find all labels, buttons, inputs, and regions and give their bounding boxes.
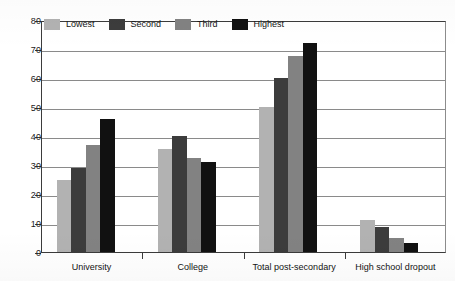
legend-label-third: Third — [197, 20, 218, 29]
bar-highest-high-school-dropout — [404, 243, 419, 252]
bar-third-university — [86, 145, 101, 252]
y-tick-label-10: 10 — [11, 220, 41, 229]
x-tick-mark-3 — [345, 253, 346, 259]
gridline-70 — [42, 51, 445, 52]
y-tick-label-80: 80 — [11, 17, 41, 26]
legend-swatch-third — [175, 19, 191, 30]
bar-highest-total-post-secondary — [303, 43, 318, 252]
legend-swatch-highest — [232, 19, 248, 30]
y-tick-label-60: 60 — [11, 75, 41, 84]
bar-second-high-school-dropout — [375, 227, 390, 252]
y-tick-label-30: 30 — [11, 162, 41, 171]
bar-lowest-university — [57, 180, 72, 253]
bar-third-college — [187, 158, 202, 252]
y-tick-label-20: 20 — [11, 191, 41, 200]
legend-label-highest: Highest — [254, 20, 285, 29]
x-category-label-college: College — [142, 262, 243, 272]
legend-item-third[interactable]: Third — [175, 19, 218, 30]
x-category-label-total-post-secondary: Total post-secondary — [244, 262, 345, 272]
y-tick-label-50: 50 — [11, 104, 41, 113]
plot-area — [41, 21, 446, 253]
y-tick-label-40: 40 — [11, 133, 41, 142]
bar-lowest-high-school-dropout — [360, 220, 375, 252]
bar-second-college — [172, 136, 187, 252]
y-axis: 01020304050607080 — [0, 0, 41, 281]
legend-swatch-lowest — [44, 19, 60, 30]
bar-chart: 01020304050607080 UniversityCollegeTotal… — [0, 0, 455, 281]
bar-second-university — [71, 168, 86, 252]
bar-lowest-college — [158, 149, 173, 252]
x-category-label-university: University — [41, 262, 142, 272]
bar-highest-college — [201, 162, 216, 252]
legend-label-lowest: Lowest — [66, 20, 95, 29]
y-tick-label-70: 70 — [11, 46, 41, 55]
legend-item-highest[interactable]: Highest — [232, 19, 285, 30]
y-tick-label-0: 0 — [11, 249, 41, 258]
bar-third-total-post-secondary — [288, 56, 303, 252]
x-tick-mark-2 — [244, 253, 245, 259]
legend-item-second[interactable]: Second — [109, 19, 162, 30]
bar-second-total-post-secondary — [274, 78, 289, 252]
gridline-60 — [42, 80, 445, 81]
bar-highest-university — [100, 119, 115, 252]
x-tick-mark-1 — [142, 253, 143, 259]
legend-label-second: Second — [131, 20, 162, 29]
chart-legend: LowestSecondThirdHighest — [44, 19, 298, 30]
gridline-50 — [42, 109, 445, 110]
bar-lowest-total-post-secondary — [259, 107, 274, 252]
legend-swatch-second — [109, 19, 125, 30]
x-category-label-high-school-dropout: High school dropout — [345, 262, 446, 272]
bar-third-high-school-dropout — [389, 238, 404, 253]
legend-item-lowest[interactable]: Lowest — [44, 19, 95, 30]
